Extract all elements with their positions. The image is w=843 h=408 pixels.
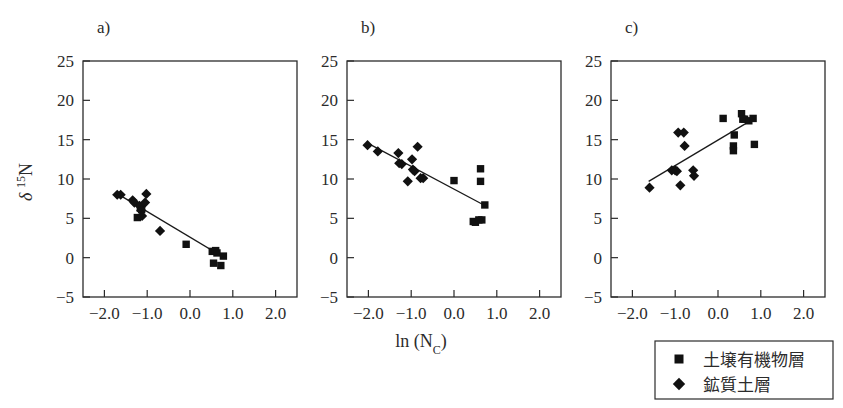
y-tick-label: 20 bbox=[57, 91, 74, 110]
y-tick-label: 0 bbox=[330, 249, 339, 268]
x-tick-label: 1.0 bbox=[750, 304, 771, 323]
legend: 土壌有機物層鉱質土層 bbox=[655, 341, 833, 399]
panels-group: a)−50510152025−2.0−1.00.01.02.0b)−505101… bbox=[56, 18, 825, 323]
y-tick-label: 25 bbox=[57, 52, 74, 71]
legend-marker-square bbox=[675, 355, 684, 364]
x-tick-label: −2.0 bbox=[89, 304, 120, 323]
data-point-diamond bbox=[155, 226, 165, 236]
data-point-diamond bbox=[407, 154, 417, 164]
y-tick-label: 20 bbox=[321, 91, 338, 110]
y-tick-label: 25 bbox=[321, 52, 338, 71]
data-point-square bbox=[217, 262, 224, 269]
data-point-square bbox=[182, 241, 189, 248]
data-point-diamond bbox=[362, 140, 372, 150]
data-point-diamond bbox=[393, 148, 403, 158]
y-tick-label: −5 bbox=[56, 288, 74, 307]
data-point-square bbox=[477, 178, 484, 185]
y-tick-label: −5 bbox=[320, 288, 338, 307]
panel-label: b) bbox=[361, 18, 375, 37]
data-point-square bbox=[719, 115, 726, 122]
y-tick-label: 0 bbox=[594, 249, 603, 268]
legend-item-label: 土壌有機物層 bbox=[703, 350, 805, 370]
data-point-square bbox=[220, 252, 227, 259]
x-tick-label: −2.0 bbox=[353, 304, 384, 323]
data-point-square bbox=[477, 165, 484, 172]
plot-frame bbox=[611, 61, 825, 297]
data-point-diamond bbox=[680, 141, 690, 151]
y-tick-label: 5 bbox=[594, 209, 603, 228]
regression-line bbox=[367, 143, 485, 206]
data-point-square bbox=[210, 259, 217, 266]
shared-axis-labels: δ 15Nln (NC) bbox=[14, 163, 447, 357]
panel-1: a)−50510152025−2.0−1.00.01.02.0 bbox=[56, 18, 297, 323]
y-tick-label: −5 bbox=[584, 288, 602, 307]
y-tick-label: 5 bbox=[66, 209, 75, 228]
y-tick-label: 5 bbox=[330, 209, 339, 228]
data-point-square bbox=[213, 249, 220, 256]
y-tick-label: 0 bbox=[66, 249, 75, 268]
data-point-diamond bbox=[373, 146, 383, 156]
panel-3: c)−50510152025−2.0−1.00.01.02.0 bbox=[584, 18, 825, 323]
plot-frame bbox=[83, 61, 297, 297]
y-tick-label: 15 bbox=[57, 131, 74, 150]
y-tick-label: 25 bbox=[585, 52, 602, 71]
x-tick-label: 2.0 bbox=[265, 304, 286, 323]
legend-item-label: 鉱質土層 bbox=[703, 375, 771, 395]
panel-label: a) bbox=[97, 18, 110, 37]
regression-line bbox=[649, 118, 756, 182]
y-axis-title: δ 15N bbox=[14, 163, 36, 201]
data-point-square bbox=[730, 147, 737, 154]
y-tick-label: 10 bbox=[57, 170, 74, 189]
data-point-square bbox=[731, 131, 738, 138]
x-tick-label: −1.0 bbox=[132, 304, 163, 323]
y-tick-label: 10 bbox=[321, 170, 338, 189]
panel-2: b)−50510152025−2.0−1.00.01.02.0 bbox=[320, 18, 561, 323]
data-point-diamond bbox=[413, 142, 423, 152]
y-tick-label: 20 bbox=[585, 91, 602, 110]
data-point-square bbox=[751, 141, 758, 148]
panel-label: c) bbox=[625, 18, 638, 37]
data-point-diamond bbox=[675, 180, 685, 190]
x-tick-label: 2.0 bbox=[793, 304, 814, 323]
x-tick-label: 0.0 bbox=[179, 304, 200, 323]
y-tick-label: 10 bbox=[585, 170, 602, 189]
x-tick-label: −1.0 bbox=[396, 304, 427, 323]
x-tick-label: 1.0 bbox=[486, 304, 507, 323]
data-point-square bbox=[749, 115, 756, 122]
three-panel-scatter-figure: a)−50510152025−2.0−1.00.01.02.0b)−505101… bbox=[0, 0, 843, 408]
data-point-diamond bbox=[403, 176, 413, 186]
data-point-square bbox=[481, 201, 488, 208]
x-tick-label: −1.0 bbox=[660, 304, 691, 323]
x-tick-label: 0.0 bbox=[443, 304, 464, 323]
figure-root: a)−50510152025−2.0−1.00.01.02.0b)−505101… bbox=[0, 0, 843, 408]
data-point-diamond bbox=[679, 127, 689, 137]
x-tick-label: 2.0 bbox=[529, 304, 550, 323]
y-tick-label: 15 bbox=[585, 131, 602, 150]
data-point-square bbox=[478, 216, 485, 223]
x-axis-title: ln (NC) bbox=[395, 331, 447, 357]
x-tick-label: 0.0 bbox=[707, 304, 728, 323]
data-point-diamond bbox=[141, 189, 151, 199]
x-tick-label: −2.0 bbox=[617, 304, 648, 323]
x-tick-label: 1.0 bbox=[222, 304, 243, 323]
data-point-diamond bbox=[644, 183, 654, 193]
y-tick-label: 15 bbox=[321, 131, 338, 150]
data-point-square bbox=[450, 177, 457, 184]
